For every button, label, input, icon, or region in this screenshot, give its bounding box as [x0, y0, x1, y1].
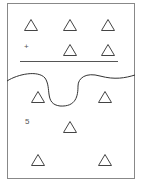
triangle-icon	[64, 45, 77, 56]
triangle-icon	[102, 45, 115, 56]
triangle-icon	[102, 20, 115, 31]
triangle-icon	[32, 155, 45, 166]
number-five-label: 5	[25, 118, 29, 126]
triangle-icon	[99, 92, 112, 103]
tear-curve	[7, 74, 135, 106]
triangle-icon	[25, 20, 38, 31]
plus-label: +	[24, 43, 29, 51]
triangles	[25, 20, 115, 166]
outer-frame	[8, 4, 135, 179]
triangle-icon	[32, 92, 45, 103]
triangle-icon	[99, 155, 112, 166]
triangle-icon	[64, 20, 77, 31]
triangle-icon	[64, 122, 77, 133]
diagram-canvas	[0, 0, 141, 184]
